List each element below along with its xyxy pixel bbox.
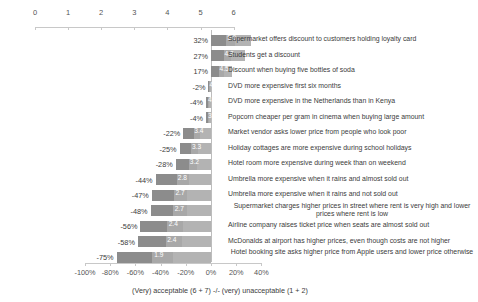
- bottom-axis-tick-mark: [261, 263, 262, 266]
- bar-segment-light: [183, 221, 211, 232]
- category-label: Hotel room more expensive during week th…: [228, 159, 476, 167]
- value-label-percent: 32%: [193, 36, 208, 45]
- bottom-axis-tick-label: -60%: [127, 268, 144, 277]
- bottom-axis-tick-mark: [85, 263, 86, 266]
- value-label-percent: -75%: [96, 253, 113, 262]
- value-label-mean: 2.8: [178, 172, 187, 183]
- chart-caption: (Very) acceptable (6 + 7) -/- (very) una…: [0, 286, 440, 295]
- bar-segment-dark: [140, 221, 167, 232]
- chart-row: 27%4.8Students get a discount: [0, 48, 478, 64]
- bottom-axis-line: [85, 263, 261, 264]
- chart-row: -48%2.7Supermarket charges higher prices…: [0, 203, 478, 219]
- category-label: Holiday cottages are more expensive duri…: [228, 144, 476, 152]
- bottom-axis-tick-label: -40%: [152, 268, 169, 277]
- category-label: DVD more expensive in the Netherlands th…: [228, 97, 476, 105]
- bottom-axis-tick-label: -80%: [102, 268, 119, 277]
- value-label-percent: 27%: [193, 52, 208, 61]
- bar-segment-light: [189, 174, 211, 185]
- category-label: DVD more expensive first six months: [228, 82, 476, 90]
- bar-segment-light: [187, 190, 211, 201]
- category-label: Airline company raises ticket price when…: [228, 221, 476, 229]
- chart-row: 17%4.5Discount when buying five bottles …: [0, 63, 478, 79]
- category-label: Discount when buying five bottles of sod…: [228, 66, 476, 74]
- value-label-mean: 1.9: [154, 249, 163, 260]
- value-label-percent: -47%: [132, 191, 149, 200]
- value-label-mean: 2.7: [175, 187, 184, 198]
- value-label-mean: 2.7: [175, 203, 184, 214]
- bottom-axis-tick-label: -100%: [74, 268, 95, 277]
- bar-segment-dark: [156, 174, 177, 185]
- value-label-percent: -4%: [190, 98, 203, 107]
- value-label-mean: 4.0: [208, 94, 217, 105]
- category-label: Umbrella more expensive when it rains an…: [228, 190, 476, 198]
- value-label-percent: -58%: [118, 238, 135, 247]
- chart-row: 32%5.0Supermarket offers discount to cus…: [0, 32, 478, 48]
- top-axis-tick-label: 3: [132, 8, 136, 17]
- top-axis-tick-label: 1: [66, 8, 70, 17]
- bar-segment-dark: [176, 159, 189, 170]
- category-label: Hotel booking site asks higher price fro…: [228, 248, 476, 256]
- bottom-axis-tick-label: -20%: [177, 268, 194, 277]
- value-label-mean: 3.3: [192, 141, 201, 152]
- bar-segment-dark: [211, 50, 224, 61]
- bar-segment-light: [187, 205, 211, 216]
- chart-row: -28%3.2Hotel room more expensive during …: [0, 156, 478, 172]
- value-label-percent: -22%: [163, 129, 180, 138]
- bottom-axis-tick-mark: [161, 263, 162, 266]
- category-label: Market vendor asks lower price from peop…: [228, 128, 476, 136]
- bottom-axis-tick-label: 0%: [206, 268, 217, 277]
- value-label-percent: -4%: [190, 114, 203, 123]
- bar: [117, 252, 212, 263]
- bottom-axis-tick-mark: [110, 263, 111, 266]
- value-label-mean: 3.2: [190, 156, 199, 167]
- plot-area: 32%5.0Supermarket offers discount to cus…: [0, 30, 478, 262]
- value-label-mean: 2.4: [169, 218, 178, 229]
- category-label: Students get a discount: [228, 51, 476, 59]
- bar-segment-light: [182, 236, 211, 247]
- bar-segment-dark: [152, 190, 175, 201]
- value-label-mean: 4.0: [209, 79, 218, 90]
- top-axis: 0123456: [0, 8, 478, 30]
- value-label-percent: -28%: [156, 160, 173, 169]
- value-label-mean: 2.4: [167, 234, 176, 245]
- chart-row: -44%2.8Umbrella more expensive when it r…: [0, 172, 478, 188]
- chart-row: -22%3.4Market vendor asks lower price fr…: [0, 125, 478, 141]
- bar-segment-dark: [117, 252, 153, 263]
- chart-row: -4%3.8Popcorn cheaper per gram in cinema…: [0, 110, 478, 126]
- bottom-axis-tick-mark: [186, 263, 187, 266]
- value-label-mean: 3.4: [194, 125, 203, 136]
- top-axis-tick-label: 6: [232, 8, 236, 17]
- bar-segment-dark: [211, 66, 219, 77]
- bottom-axis-tick-mark: [135, 263, 136, 266]
- bar-segment-dark: [211, 35, 226, 46]
- value-label-percent: -44%: [136, 176, 153, 185]
- category-label: Supermarket charges higher prices in str…: [228, 202, 476, 219]
- bottom-axis-tick-label: 40%: [254, 268, 269, 277]
- top-axis-tick-label: 4: [165, 8, 169, 17]
- top-axis-tick-label: 5: [198, 8, 202, 17]
- value-label-percent: 17%: [193, 67, 208, 76]
- chart-row: -4%4.0DVD more expensive in the Netherla…: [0, 94, 478, 110]
- value-label-percent: -2%: [192, 83, 205, 92]
- bar-segment-light: [173, 252, 211, 263]
- value-label-percent: -48%: [130, 207, 147, 216]
- bar-segment-dark: [151, 205, 174, 216]
- bottom-axis-tick-mark: [211, 263, 212, 266]
- bottom-axis-tick-mark: [236, 263, 237, 266]
- value-label-mean: 3.8: [208, 110, 217, 121]
- top-axis-tick-label: 2: [99, 8, 103, 17]
- value-label-percent: -56%: [120, 222, 137, 231]
- chart-row: -25%3.3Holiday cottages are more expensi…: [0, 141, 478, 157]
- category-label: McDonalds at airport has higher prices, …: [228, 237, 476, 245]
- bar-segment-dark: [180, 143, 192, 154]
- top-axis-tick-label: 0: [33, 8, 37, 17]
- bottom-axis-tick-label: 20%: [229, 268, 244, 277]
- horizontal-bar-chart: 0123456 32%5.0Supermarket offers discoun…: [0, 0, 478, 302]
- chart-row: -56%2.4Airline company raises ticket pri…: [0, 218, 478, 234]
- bar-segment-dark: [183, 128, 194, 139]
- category-label: Umbrella more expensive when it rains an…: [228, 175, 476, 183]
- value-label-percent: -25%: [159, 145, 176, 154]
- bottom-axis: -100%-80%-60%-40%-20%0%20%40%: [0, 262, 478, 282]
- chart-row: -2%4.0DVD more expensive first six month…: [0, 79, 478, 95]
- category-label: Supermarket offers discount to customers…: [228, 35, 476, 43]
